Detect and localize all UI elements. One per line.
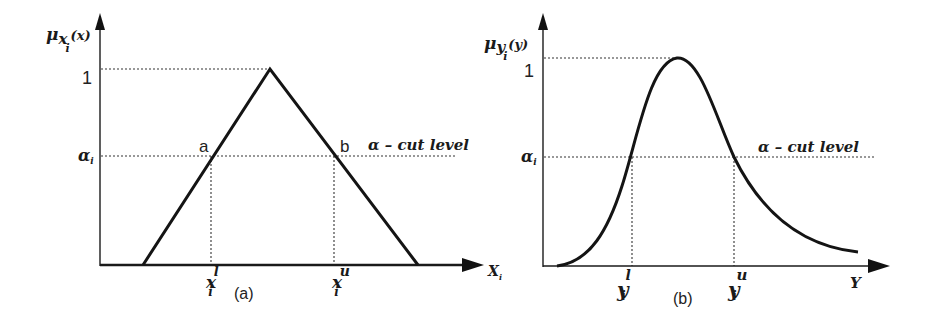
panel-b-x-axis-label: Y bbox=[850, 274, 862, 292]
panel-a-x-axis-label: Xi bbox=[487, 263, 502, 282]
panel-a-point-a: a bbox=[199, 137, 209, 156]
panel-a-y-axis-label: μxi(x) bbox=[46, 24, 91, 55]
panel-b-y-arrow-icon bbox=[538, 13, 548, 30]
panel-a-alpha-cut-label: α – cut level bbox=[368, 136, 469, 154]
fuzzy-membership-diagram: μxi(x) 1 αi a b α – cut level xil (a) xi… bbox=[0, 0, 930, 330]
panel-b-x-arrow-icon bbox=[868, 259, 890, 273]
panel-a-y-arrow-icon bbox=[95, 13, 105, 30]
panel-a-x-arrow-icon bbox=[462, 258, 484, 272]
panel-b: μyi(y) 1 αi α – cut level yil (b) yiu Y bbox=[484, 13, 890, 307]
panel-a-lower-bound-label: xil bbox=[205, 264, 219, 299]
panel-b-caption: (b) bbox=[673, 290, 693, 307]
panel-b-y-tick-1: 1 bbox=[524, 61, 534, 81]
panel-a-triangular-membership-curve bbox=[143, 69, 418, 265]
panel-b-upper-bound-label: yiu bbox=[727, 266, 748, 303]
panel-b-alpha-label: αi bbox=[521, 147, 537, 167]
panel-a-caption: (a) bbox=[234, 285, 254, 302]
panel-a-point-b: b bbox=[340, 137, 349, 156]
panel-b-alpha-cut-label: α – cut level bbox=[758, 138, 859, 156]
panel-b-lower-bound-label: yil bbox=[616, 267, 631, 303]
panel-a-y-tick-1: 1 bbox=[82, 68, 92, 88]
panel-b-y-axis-label: μyi(y) bbox=[484, 33, 528, 63]
panel-b-bell-membership-curve bbox=[557, 58, 858, 266]
panel-a: μxi(x) 1 αi a b α – cut level xil (a) xi… bbox=[46, 13, 502, 302]
panel-a-upper-bound-label: xiu bbox=[331, 263, 350, 299]
panel-a-alpha-label: αi bbox=[78, 146, 94, 166]
